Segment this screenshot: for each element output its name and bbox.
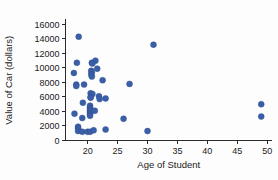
y-tick-label: 8000 [39,78,59,88]
data-point [145,128,151,134]
data-point [100,77,106,83]
data-point [71,111,77,117]
data-point [80,100,86,106]
plot-area: 0200040006000800010000120001400016000 20… [0,0,278,180]
x-axis-title: Age of Student [137,159,200,170]
data-point [76,34,82,40]
data-point [94,66,100,72]
data-point [103,95,109,101]
x-tick-label: 50 [262,146,272,156]
data-point [258,114,264,120]
data-point [121,116,127,122]
scatter-chart: 0200040006000800010000120001400016000 20… [0,0,278,180]
x-axis: 20253035404550 [66,141,273,156]
data-point [150,42,156,48]
data-point [97,96,103,102]
x-tick-label: 25 [113,146,123,156]
y-tick-label: 0 [54,136,59,146]
data-point [103,127,109,133]
data-point [81,82,87,88]
data-point [91,127,97,133]
x-tick-label: 45 [232,146,242,156]
y-tick-label: 16000 [34,20,59,30]
data-point [74,60,80,66]
data-point [71,70,77,76]
x-tick-label: 35 [172,146,182,156]
data-point [127,81,133,87]
data-point [92,108,98,114]
data-point [73,83,79,89]
x-tick-label: 40 [202,146,212,156]
x-tick-label: 30 [142,146,152,156]
y-tick-label: 14000 [34,34,59,44]
y-tick-label: 4000 [39,107,59,117]
data-point [89,74,95,80]
data-point [79,129,85,135]
y-axis-title: Value of Car (dollars) [3,36,14,125]
y-tick-label: 12000 [34,49,59,59]
y-axis: 0200040006000800010000120001400016000 [34,19,65,146]
data-point [87,113,93,119]
data-point [88,95,94,101]
y-tick-label: 2000 [39,121,59,131]
data-point [89,61,95,67]
data-points-group [71,34,264,135]
data-point [79,115,85,121]
y-tick-label: 6000 [39,92,59,102]
data-point [258,101,264,107]
x-tick-label: 20 [83,146,93,156]
y-tick-label: 10000 [34,63,59,73]
